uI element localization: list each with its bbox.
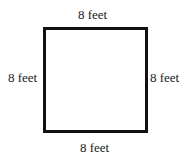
square-shape [43,27,148,133]
top-side-label: 8 feet [78,8,107,21]
left-side-label: 8 feet [8,71,37,84]
right-side-label: 8 feet [150,71,179,84]
bottom-side-label: 8 feet [80,141,109,154]
